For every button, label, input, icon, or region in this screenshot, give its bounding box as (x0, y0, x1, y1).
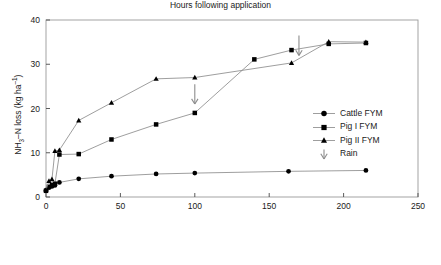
x-tick-label: 150 (262, 201, 276, 211)
data-point-circle (154, 172, 159, 177)
data-point-triangle (57, 147, 62, 152)
data-point-circle (192, 171, 197, 176)
triangle-glyph (321, 138, 327, 143)
data-point-circle (109, 174, 114, 179)
data-point-triangle (76, 118, 81, 123)
triangle-icon (311, 133, 337, 146)
legend-item-pig-ii-fym: Pig II FYM (311, 133, 383, 147)
legend-item-pig-i-fym: Pig I FYM (311, 120, 383, 134)
x-tick-label: 50 (116, 201, 126, 211)
y-axis-title: NH3–N loss (kg ha–1) (11, 50, 25, 180)
y-axis-title-sub: 3 (18, 139, 25, 143)
y-tick-label: 40 (31, 15, 41, 25)
y-axis-title-post: ) (13, 75, 23, 78)
x-tick-label: 200 (337, 201, 351, 211)
data-point-square (154, 122, 159, 127)
series-cattle-fym (44, 168, 369, 193)
data-point-square (193, 111, 198, 116)
data-point-circle (57, 180, 62, 185)
rain-annotation-1 (192, 84, 198, 104)
circle-icon (311, 106, 337, 119)
legend-item-cattle-fym: Cattle FYM (311, 106, 383, 120)
y-axis-title-pre: NH (13, 142, 23, 154)
legend-label: Pig I FYM (340, 121, 377, 131)
down-arrow-icon (311, 147, 337, 160)
x-tick-label: 250 (411, 201, 425, 211)
square-glyph (321, 125, 326, 130)
y-tick-label: 10 (31, 148, 41, 158)
square-icon (311, 120, 337, 133)
y-axis-title-sup: –1 (11, 78, 18, 85)
legend-label: Pig II FYM (340, 135, 380, 145)
chart-figure: 050100150200250010203040 NH3–N loss (kg … (0, 0, 441, 265)
data-point-square (109, 137, 114, 142)
data-point-triangle (49, 177, 54, 182)
x-tick-label: 0 (44, 201, 49, 211)
data-point-triangle (289, 60, 294, 65)
rain-annotation-2 (296, 35, 302, 55)
legend-label: Rain (340, 148, 357, 158)
data-point-square (53, 181, 58, 186)
data-point-circle (364, 168, 369, 173)
y-axis-title-mid: –N loss (kg ha (13, 85, 23, 139)
y-tick-label: 30 (31, 59, 41, 69)
legend-item-rain: Rain (311, 147, 383, 161)
circle-glyph (321, 111, 327, 117)
chart-legend: Cattle FYMPig I FYMPig II FYMRain (311, 106, 383, 160)
data-point-square (76, 152, 81, 157)
y-tick-label: 0 (35, 192, 40, 202)
x-tick-label: 100 (188, 201, 202, 211)
data-point-square (252, 57, 257, 62)
legend-label: Cattle FYM (340, 108, 383, 118)
y-tick-label: 20 (31, 104, 41, 114)
data-point-circle (286, 169, 291, 174)
data-point-triangle (109, 100, 114, 105)
data-point-square (57, 152, 62, 157)
data-point-circle (76, 176, 81, 181)
data-point-square (289, 48, 294, 53)
series-line (46, 170, 366, 190)
